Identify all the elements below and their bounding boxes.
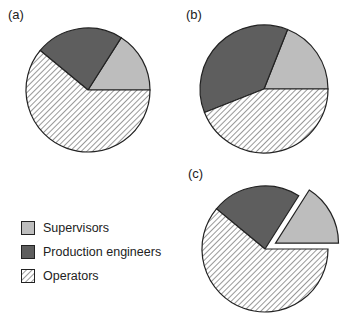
legend-item-operators: Operators (21, 264, 161, 288)
pie-chart-b (200, 25, 328, 153)
engineers-swatch (21, 245, 35, 259)
pie-chart-c (202, 186, 339, 312)
legend-label: Supervisors (43, 221, 109, 235)
legend-item-supervisors: Supervisors (21, 216, 161, 240)
legend-item-engineers: Production engineers (21, 240, 161, 264)
legend-label: Operators (43, 269, 99, 283)
pie-chart-a (26, 28, 150, 152)
supervisors-swatch (21, 221, 35, 235)
legend-label: Production engineers (43, 245, 161, 259)
legend: Supervisors Production engineers Operato… (21, 216, 161, 288)
operators-swatch (21, 269, 35, 283)
